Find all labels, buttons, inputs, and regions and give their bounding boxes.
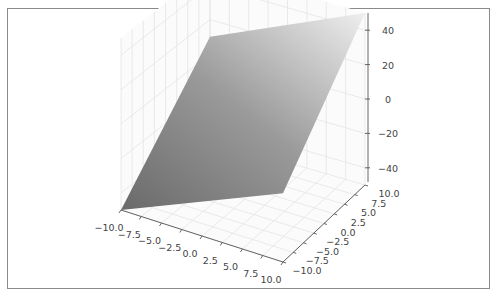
x-tick bbox=[241, 249, 243, 252]
x-tick bbox=[180, 230, 182, 233]
surface-plot-3d: −10.0−7.5−5.0−2.50.02.55.07.510.0 −10.0−… bbox=[0, 0, 498, 297]
z-tick-label: −20 bbox=[378, 128, 398, 139]
x-tick bbox=[119, 210, 121, 213]
y-tick bbox=[293, 252, 296, 253]
y-tick-label: 0.0 bbox=[340, 227, 355, 238]
x-tick-label: 5.0 bbox=[223, 261, 238, 272]
z-tick-label: −40 bbox=[378, 163, 398, 174]
y-tick-label: −5.0 bbox=[316, 246, 339, 257]
y-tick-label: 5.0 bbox=[361, 207, 376, 218]
y-tick bbox=[314, 233, 317, 234]
x-tick bbox=[160, 223, 162, 226]
x-tick-label: 10.0 bbox=[260, 274, 281, 285]
x-tick-label: −2.5 bbox=[158, 242, 181, 253]
z-axis-ticks: −40−2002040 bbox=[365, 25, 398, 174]
x-tick bbox=[220, 243, 222, 246]
x-tick bbox=[281, 262, 283, 265]
y-tick bbox=[283, 262, 286, 263]
y-tick-label: −10.0 bbox=[292, 265, 321, 276]
y-tick-label: 10.0 bbox=[378, 188, 399, 199]
y-tick bbox=[324, 224, 327, 225]
y-tick bbox=[304, 243, 307, 244]
y-tick-label: −2.5 bbox=[326, 236, 349, 247]
y-tick-label: 2.5 bbox=[351, 217, 366, 228]
y-tick-label: −7.5 bbox=[306, 255, 329, 266]
x-tick-label: 7.5 bbox=[243, 268, 258, 279]
z-tick-label: 40 bbox=[382, 25, 394, 36]
y-tick bbox=[334, 214, 337, 215]
x-tick-label: 0.0 bbox=[182, 248, 197, 259]
x-tick-label: 2.5 bbox=[203, 255, 218, 266]
y-tick bbox=[355, 195, 358, 196]
z-tick-label: 0 bbox=[385, 94, 391, 105]
x-tick bbox=[139, 217, 141, 220]
x-tick bbox=[200, 236, 202, 239]
y-tick bbox=[365, 185, 368, 186]
x-tick bbox=[261, 256, 263, 259]
z-tick-label: 20 bbox=[382, 60, 394, 71]
y-tick bbox=[345, 204, 348, 205]
y-tick-label: 7.5 bbox=[371, 198, 386, 209]
